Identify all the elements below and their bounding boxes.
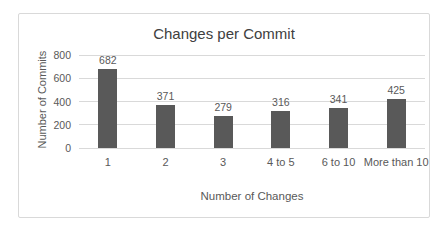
gridline-200 — [79, 124, 425, 125]
chart-image: Changes per Commit Number of Commits Num… — [0, 0, 445, 231]
bar — [387, 99, 406, 148]
data-label: 279 — [198, 101, 248, 113]
x-tick-label: 3 — [190, 156, 256, 168]
y-tick-label: 200 — [39, 119, 71, 131]
bar — [271, 111, 290, 148]
x-tick-label: 6 to 10 — [306, 156, 372, 168]
x-tick-label: 4 to 5 — [248, 156, 314, 168]
y-tick-label: 800 — [39, 49, 71, 61]
data-label: 425 — [371, 84, 421, 96]
y-tick-label: 600 — [39, 72, 71, 84]
x-tick-label: 2 — [133, 156, 199, 168]
x-tick-label: More than 10 — [363, 156, 429, 168]
gridline-600 — [79, 78, 425, 79]
y-tick-label: 400 — [39, 96, 71, 108]
data-label: 341 — [314, 93, 364, 105]
data-label: 371 — [141, 90, 191, 102]
gridline-400 — [79, 101, 425, 102]
data-label: 316 — [256, 96, 306, 108]
data-label: 682 — [83, 54, 133, 66]
bar — [156, 105, 175, 148]
bar — [329, 108, 348, 148]
chart-frame: Changes per Commit Number of Commits Num… — [18, 13, 430, 218]
x-tick-label: 1 — [75, 156, 141, 168]
chart-title: Changes per Commit — [19, 25, 429, 43]
gridline-0 — [79, 148, 425, 149]
bar — [214, 116, 233, 148]
bar — [98, 69, 117, 148]
x-axis-title: Number of Changes — [79, 190, 425, 203]
y-tick-label: 0 — [39, 142, 71, 154]
